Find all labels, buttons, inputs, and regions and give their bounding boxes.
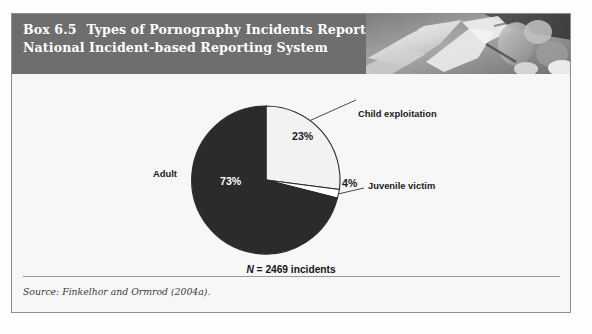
source-divider	[23, 276, 560, 277]
pie-slice-child-exploitation	[266, 106, 340, 189]
sample-size-text: = 2469 incidents	[254, 264, 336, 275]
title-line-1: Box 6.5Types of Pornography Incidents Re…	[23, 21, 368, 39]
pie-value-child-exploitation: 23%	[292, 130, 313, 142]
pie-label-child-exploitation: Child exploitation	[358, 108, 437, 119]
pie-chart-svg	[12, 74, 572, 277]
pie-value-adult: 73%	[220, 175, 241, 187]
pie-value-juvenile-victim: 4%	[342, 177, 357, 189]
pie-chart: Child exploitation Juvenile victim Adult…	[12, 74, 570, 277]
leader-line-child-exploitation	[309, 100, 356, 121]
page-canvas: Box 6.5Types of Pornography Incidents Re…	[0, 0, 592, 334]
title-line-2: National Incident-based Reporting System	[23, 39, 368, 57]
pie-label-adult: Adult	[153, 168, 177, 179]
source-note: Source: Finkelhor and Ormrod (2004a).	[23, 286, 210, 297]
box-number: Box 6.5	[23, 22, 77, 37]
page-title: Box 6.5Types of Pornography Incidents Re…	[23, 21, 368, 57]
sample-size-symbol: N	[246, 264, 253, 275]
box-frame: Box 6.5Types of Pornography Incidents Re…	[11, 13, 571, 313]
sample-size-caption: N = 2469 incidents	[12, 264, 570, 275]
header-photograph	[366, 14, 570, 74]
pie-label-juvenile-victim: Juvenile victim	[368, 180, 435, 191]
box-header: Box 6.5Types of Pornography Incidents Re…	[12, 14, 570, 74]
title-text-1: Types of Pornography Incidents Reported …	[87, 22, 404, 37]
photograph-icon	[366, 14, 570, 74]
